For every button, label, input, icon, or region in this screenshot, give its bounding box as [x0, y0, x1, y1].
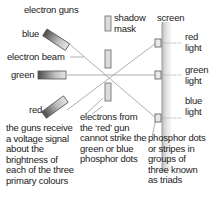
gun-blue — [43, 29, 70, 50]
label-blue: blue — [22, 29, 39, 40]
gun-green — [38, 71, 66, 79]
label-screen: screen — [157, 13, 184, 24]
crt-diagram: electron guns blue electron beam green r… — [0, 0, 216, 197]
label-electron-guns: electron guns — [24, 5, 78, 16]
label-shadow-mask: shadow mask — [114, 13, 146, 34]
label-green-light: green light — [185, 65, 208, 86]
gun-red — [42, 96, 69, 118]
label-red: red — [29, 105, 42, 116]
label-electron-beam: electron beam — [7, 52, 65, 63]
phosphor-note: phosphor dots or stripes in groups of th… — [148, 133, 206, 186]
guns-note: the guns receive a voltage signal about … — [6, 123, 74, 186]
shadow-mask — [105, 16, 111, 101]
electrons-note: electrons from the ‘red’ gun cannot stri… — [80, 112, 146, 165]
label-green: green — [11, 70, 34, 81]
label-blue-light: blue light — [185, 96, 202, 117]
label-red-light: red light — [185, 32, 201, 53]
phosphor-dots — [155, 39, 161, 122]
